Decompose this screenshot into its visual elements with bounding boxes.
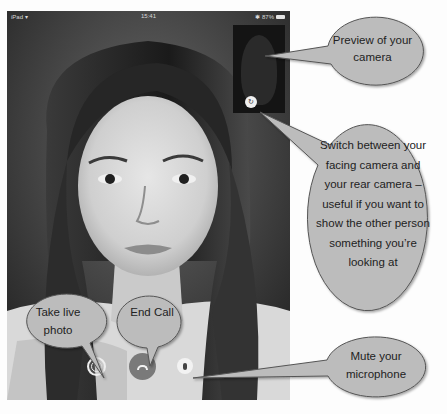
camera-switch-icon[interactable]: ↻ (245, 96, 257, 108)
end-call-button[interactable] (129, 353, 156, 380)
microphone-icon (183, 363, 187, 370)
shutter-icon (91, 361, 102, 372)
callout-switch-camera-text: Switch between your facing camera and yo… (316, 136, 430, 273)
battery-icon (276, 15, 285, 19)
clock: 15:41 (7, 13, 290, 19)
phone-hangup-icon (137, 365, 148, 370)
self-camera-preview[interactable] (233, 25, 285, 113)
callout-preview-text: Preview of your camera (330, 32, 415, 66)
callout-end-call-text: End Call (124, 303, 180, 321)
status-bar: iPad ▾ 15:41 ✱ 87% (7, 11, 290, 21)
bluetooth-icon: ✱ (255, 13, 260, 20)
callout-live-photo-text: Take live photo (22, 303, 94, 339)
callout-mute-text: Mute your microphone (330, 347, 422, 383)
facetime-screen: iPad ▾ 15:41 ✱ 87% (7, 11, 290, 400)
preview-silhouette (241, 35, 277, 105)
status-right: ✱ 87% (255, 13, 285, 20)
battery-percent: 87% (262, 14, 274, 20)
live-photo-button[interactable] (87, 357, 106, 376)
mute-button[interactable] (177, 358, 193, 374)
